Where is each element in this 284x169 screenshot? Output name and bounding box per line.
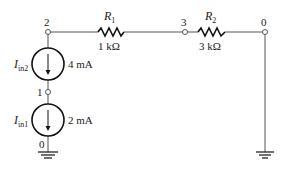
resistor-r2-icon <box>198 28 225 36</box>
node-0-top-terminal <box>263 30 268 35</box>
current-source-in1-icon <box>32 104 64 136</box>
src-in1-name-label: Iin1 <box>13 113 28 129</box>
src-in2-value-label: 4 mA <box>68 58 93 70</box>
src-in1-value-label: 2 mA <box>68 114 93 126</box>
r2-name-label: R2 <box>204 9 216 25</box>
src-in2-name-label: Iin2 <box>13 57 28 73</box>
node-3-terminal <box>183 30 188 35</box>
r1-name-label: R1 <box>103 9 115 25</box>
node-0-top-label: 0 <box>261 16 267 28</box>
node-2-terminal <box>46 30 51 35</box>
node-0-bottom-label: 0 <box>39 138 45 150</box>
circuit-diagram: 2 3 0 1 0 R1 1 kΩ R2 3 kΩ Iin2 4 mA Iin1… <box>0 0 284 169</box>
node-3-label: 3 <box>181 16 187 28</box>
ground-right-icon <box>256 152 274 158</box>
r2-value-label: 3 kΩ <box>199 40 221 52</box>
resistor-r1-icon <box>98 28 124 36</box>
ground-left-icon <box>38 152 58 158</box>
node-2-label: 2 <box>44 16 50 28</box>
node-1-label: 1 <box>37 86 43 98</box>
current-source-in2-icon <box>32 48 64 80</box>
r1-value-label: 1 kΩ <box>98 40 120 52</box>
node-1-terminal <box>46 90 51 95</box>
